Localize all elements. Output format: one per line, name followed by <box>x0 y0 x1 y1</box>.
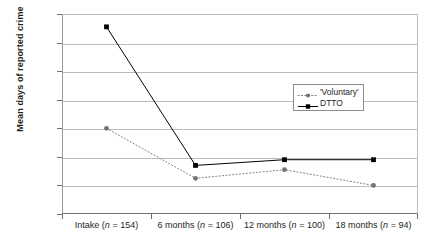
x-label-name-2: 12 months <box>244 220 286 230</box>
x-label-n-value-2: 100 <box>307 220 322 230</box>
line-chart: Mean days of reported crime 140 120 100 … <box>0 0 436 251</box>
x-label-n-value-0: 154 <box>120 220 135 230</box>
x-tick-label-6-months: 6 months (n = 106) <box>151 220 240 230</box>
x-label-n-symbol-3: n <box>383 220 388 230</box>
legend-key-dtto-solid-square <box>297 98 319 109</box>
plot-area <box>62 14 418 214</box>
x-label-n-symbol-2: n <box>292 220 297 230</box>
x-label-name-0: Intake <box>75 220 100 230</box>
gridline-100 <box>63 72 417 73</box>
legend-key-voluntary-dotted-circle <box>297 87 319 98</box>
x-label-name-3: 18 months <box>336 220 378 230</box>
x-tick-mark-2 <box>240 214 241 219</box>
legend-item-dtto[interactable]: DTTO <box>297 98 360 109</box>
x-tick-mark-3 <box>329 214 330 219</box>
x-label-n-value-3: 94 <box>398 220 408 230</box>
x-tick-label-18-months: 18 months (n = 94) <box>329 220 418 230</box>
x-tick-label-intake: Intake (n = 154) <box>62 220 151 230</box>
x-label-n-value-1: 106 <box>215 220 230 230</box>
x-tick-mark-0 <box>62 214 63 219</box>
x-tick-mark-4 <box>417 214 418 219</box>
x-label-n-symbol-0: n <box>105 220 110 230</box>
legend-label-dtto: DTTO <box>320 98 343 109</box>
gridline-40 <box>63 158 417 159</box>
gridline-120 <box>63 44 417 45</box>
legend: 'Voluntary' DTTO <box>293 84 364 111</box>
x-label-n-symbol-1: n <box>200 220 205 230</box>
x-label-name-1: 6 months <box>158 220 195 230</box>
legend-item-voluntary[interactable]: 'Voluntary' <box>297 87 360 98</box>
x-tick-mark-1 <box>151 214 152 219</box>
gridline-20 <box>63 186 417 187</box>
gridline-60 <box>63 129 417 130</box>
x-tick-label-12-months: 12 months (n = 100) <box>240 220 329 230</box>
legend-label-voluntary: 'Voluntary' <box>320 87 359 98</box>
y-axis-title: Mean days of reported crime <box>15 0 29 149</box>
